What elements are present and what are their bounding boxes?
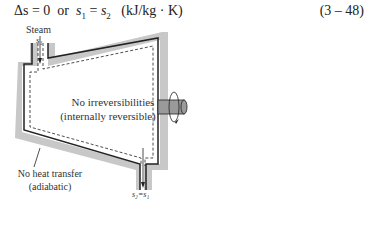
steam-label: Steam <box>26 24 51 35</box>
internal-label-1: No irreversibilities <box>58 96 168 108</box>
internal-label-2: (internally reversible) <box>46 110 170 122</box>
outlet-state-label: s₂=s₁ <box>132 190 149 199</box>
wall-label-1: No heat transfer <box>10 168 90 179</box>
inlet-state-label: s₁ <box>36 35 43 45</box>
wall-label-2: (adiabatic) <box>10 181 90 192</box>
